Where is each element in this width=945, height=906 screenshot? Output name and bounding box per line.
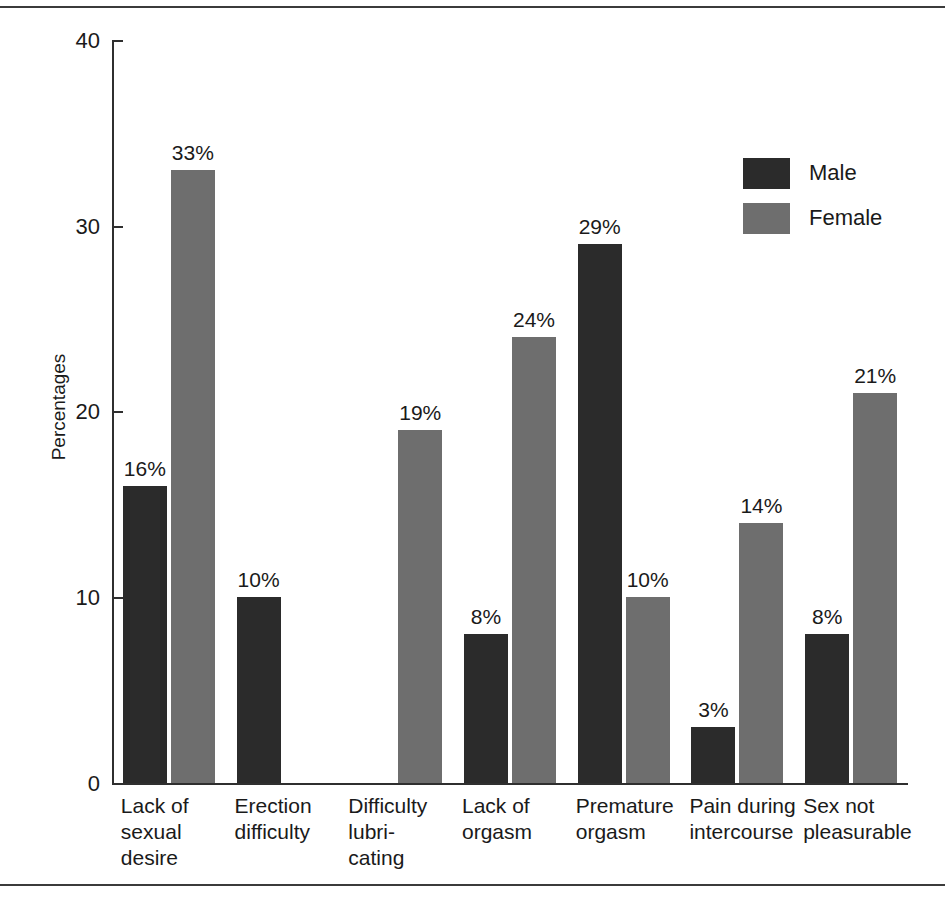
category-label: Lack of orgasm bbox=[462, 793, 582, 845]
bar-value-label: 16% bbox=[113, 457, 177, 481]
bar bbox=[853, 393, 897, 783]
y-tick-label-30: 30 bbox=[58, 214, 100, 240]
bar bbox=[805, 634, 849, 783]
chart-figure: 40 30 20 10 0 Percentages Lack of sexual… bbox=[0, 0, 945, 906]
bar-value-label: 21% bbox=[843, 364, 907, 388]
page-rule-bottom bbox=[0, 884, 945, 886]
bar-value-label: 29% bbox=[568, 215, 632, 239]
x-axis-line bbox=[112, 783, 908, 785]
bar bbox=[398, 430, 442, 783]
bar-value-label: 10% bbox=[227, 568, 291, 592]
y-tick-label-0: 0 bbox=[58, 771, 100, 797]
legend-swatch-male-icon bbox=[743, 158, 790, 189]
bar bbox=[237, 597, 281, 783]
category-label: Premature orgasm bbox=[576, 793, 696, 845]
category-label: Pain during intercourse bbox=[689, 793, 809, 845]
bar-value-label: 19% bbox=[388, 401, 452, 425]
y-tick-label-10: 10 bbox=[58, 585, 100, 611]
page-rule-top bbox=[0, 6, 945, 8]
category-label: Sex not pleasurable bbox=[803, 793, 923, 845]
bar-value-label: 24% bbox=[502, 308, 566, 332]
bar bbox=[691, 727, 735, 783]
legend-swatch-female-icon bbox=[743, 203, 790, 234]
bar bbox=[171, 170, 215, 783]
bar-value-label: 3% bbox=[681, 698, 745, 722]
bar bbox=[739, 523, 783, 783]
bar bbox=[123, 486, 167, 783]
legend: Male Female bbox=[743, 158, 923, 248]
y-tick-label-40: 40 bbox=[58, 28, 100, 54]
legend-label-male: Male bbox=[809, 160, 857, 186]
bar bbox=[578, 244, 622, 783]
plot-area bbox=[112, 40, 908, 783]
bar bbox=[512, 337, 556, 783]
legend-item-female[interactable]: Female bbox=[743, 203, 923, 248]
bar-value-label: 8% bbox=[454, 605, 518, 629]
category-label: Difficulty lubri- cating bbox=[348, 793, 468, 871]
bar bbox=[464, 634, 508, 783]
bar-value-label: 10% bbox=[616, 568, 680, 592]
category-label: Erection difficulty bbox=[235, 793, 355, 845]
bar bbox=[626, 597, 670, 783]
y-axis-title: Percentages bbox=[48, 327, 70, 487]
bar-value-label: 33% bbox=[161, 141, 225, 165]
category-label: Lack of sexual desire bbox=[121, 793, 241, 871]
bar-value-label: 8% bbox=[795, 605, 859, 629]
legend-label-female: Female bbox=[809, 205, 882, 231]
bar-value-label: 14% bbox=[729, 494, 793, 518]
y-tick-0 bbox=[112, 783, 123, 785]
legend-item-male[interactable]: Male bbox=[743, 158, 923, 203]
